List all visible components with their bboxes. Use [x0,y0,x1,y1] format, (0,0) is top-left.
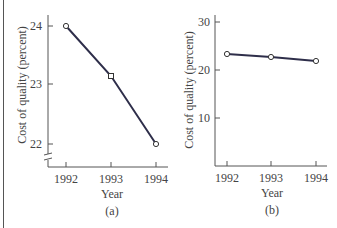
chart-b-xtick: 1993 [259,171,283,185]
chart-b-xtick: 1994 [304,171,328,185]
chart-a-ytick: 22 [30,137,42,151]
chart-b-x-axis-title: Year [261,186,283,200]
data-point-marker [109,74,114,79]
figure: 24 23 22 1992 1993 1994 Year Cost of qua… [0,0,337,228]
chart-a-panel-label: (a) [105,204,118,218]
chart-a-xtick: 1993 [99,172,123,186]
chart-b-ytick: 20 [198,63,210,77]
chart-b-y-axis-title: Cost of quality (percent) [182,31,196,149]
chart-b: 30 20 10 1992 1993 1994 Year Cost of qua… [182,15,328,217]
data-point-marker [313,58,318,63]
chart-a-xtick: 1994 [144,172,168,186]
chart-a-ytick: 24 [30,19,42,33]
data-point-marker [268,54,273,59]
chart-a-x-axis-title: Year [101,187,123,201]
chart-a-ytick: 23 [30,77,42,91]
data-point-marker [224,51,229,56]
chart-b-xtick: 1992 [215,171,239,185]
chart-a: 24 23 22 1992 1993 1994 Year Cost of qua… [15,15,168,218]
chart-b-ytick: 10 [198,111,210,125]
data-point-marker [153,141,158,146]
chart-b-panel-label: (b) [265,203,279,217]
chart-b-ytick: 30 [198,15,210,29]
data-point-marker [63,23,68,28]
chart-a-y-axis-title: Cost of quality (percent) [15,26,29,144]
chart-a-series-line [66,26,156,144]
chart-a-xtick: 1992 [54,172,78,186]
axis-break-icon [44,158,52,160]
